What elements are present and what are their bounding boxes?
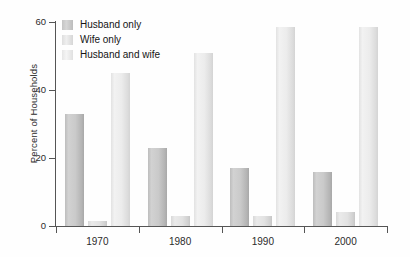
- y-axis-tick-label: 60: [0, 16, 46, 27]
- legend-item[interactable]: Wife only: [62, 32, 160, 47]
- x-axis-tick-label: 2000: [316, 236, 376, 247]
- legend-label: Husband and wife: [80, 49, 160, 60]
- bar: [88, 221, 107, 226]
- x-axis-tick: [387, 227, 388, 233]
- y-axis-tick-label: 20: [0, 152, 46, 163]
- bar: [65, 114, 84, 226]
- x-axis-tick: [139, 227, 140, 233]
- bar: [148, 148, 167, 226]
- y-axis-tick: [49, 22, 56, 23]
- x-axis-tick-label: 1970: [67, 236, 127, 247]
- legend-swatch-icon: [62, 35, 73, 45]
- bar: [194, 53, 213, 226]
- x-axis-tick-label: 1990: [233, 236, 293, 247]
- y-axis-tick-label: 40: [0, 84, 46, 95]
- legend-label: Wife only: [80, 34, 121, 45]
- x-axis-tick-label: 1980: [150, 236, 210, 247]
- y-axis-tick-label: 0: [0, 220, 46, 231]
- bar-chart: Percent of Households 0204060 1970198019…: [0, 0, 410, 257]
- bar: [276, 27, 295, 226]
- y-axis-tick: [49, 90, 56, 91]
- y-axis-label: Percent of Households: [28, 19, 39, 209]
- bar: [359, 27, 378, 226]
- x-axis-tick: [56, 227, 57, 233]
- bar: [230, 168, 249, 226]
- y-axis-tick: [49, 226, 56, 227]
- legend-item[interactable]: Husband and wife: [62, 47, 160, 62]
- y-axis-tick: [49, 158, 56, 159]
- chart-legend: Husband only Wife only Husband and wife: [62, 17, 160, 62]
- bar: [313, 172, 332, 226]
- bar: [111, 73, 130, 226]
- x-axis-tick: [222, 227, 223, 233]
- x-axis-tick: [304, 227, 305, 233]
- legend-item[interactable]: Husband only: [62, 17, 160, 32]
- legend-swatch-icon: [62, 20, 73, 30]
- legend-swatch-icon: [62, 50, 73, 60]
- bar: [336, 212, 355, 226]
- legend-label: Husband only: [80, 19, 141, 30]
- bar: [253, 216, 272, 226]
- bar: [171, 216, 190, 226]
